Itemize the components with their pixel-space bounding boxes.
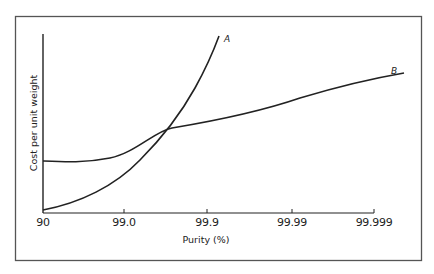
- curve-b: [43, 73, 404, 162]
- y-axis-title: Cost per unit weight: [28, 75, 39, 172]
- curve-b-label: B: [391, 66, 397, 76]
- chart-figure: 90 99.0 99.9 99.99 99.999 Purity (%) Cos…: [0, 0, 434, 274]
- x-tick-label-99-999: 99.999: [356, 216, 393, 229]
- x-tick-label-90: 90: [36, 216, 50, 229]
- curve-a-label: A: [223, 34, 230, 44]
- curve-a: [43, 36, 219, 210]
- x-tick-label-99-9: 99.9: [195, 216, 219, 229]
- x-axis-title: Purity (%): [183, 234, 230, 245]
- x-tick-label-99-99: 99.99: [277, 216, 307, 229]
- x-tick-label-99-0: 99.0: [112, 216, 136, 229]
